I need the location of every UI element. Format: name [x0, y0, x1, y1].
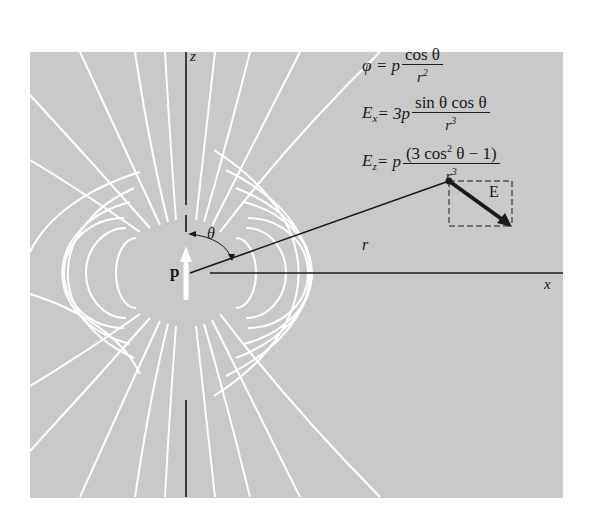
ex-prefix: = 3p — [377, 104, 410, 124]
ex-den-exp: 3 — [451, 115, 456, 126]
theta-label: θ — [207, 225, 215, 243]
radius-label: r — [362, 236, 368, 254]
ez-lhs: Ez — [362, 151, 377, 172]
ez-num-b: θ − 1) — [452, 144, 497, 163]
equation-phi: φ = p cos θ r2 — [362, 46, 443, 85]
ex-lhs-base: E — [362, 103, 372, 122]
phi-lhs: φ = p — [362, 56, 400, 76]
ex-fraction: sin θ cos θ r3 — [412, 94, 490, 133]
ez-prefix: = p — [377, 152, 401, 172]
z-axis-label: z — [190, 48, 196, 65]
equation-ez: Ez = p (3 cos2 θ − 1) r3 — [362, 140, 500, 184]
ez-denominator: r3 — [446, 164, 457, 184]
ez-den-exp: 3 — [452, 166, 457, 177]
ex-denominator: r3 — [445, 113, 456, 133]
phi-fraction: cos θ r2 — [402, 46, 443, 85]
phi-den-exp: 2 — [423, 67, 428, 78]
ez-lhs-base: E — [362, 151, 372, 170]
field-vector-label: E — [489, 183, 499, 201]
x-axis-label: x — [544, 276, 551, 293]
phi-denominator: r2 — [417, 65, 428, 85]
ex-lhs: Ex — [362, 103, 377, 124]
equation-ex: Ex = 3p sin θ cos θ r3 — [362, 94, 490, 133]
ez-fraction: (3 cos2 θ − 1) r3 — [403, 140, 500, 184]
ex-numerator: sin θ cos θ — [412, 94, 490, 113]
dipole-field-diagram — [0, 0, 590, 517]
dipole-label: p — [170, 262, 179, 282]
phi-numerator: cos θ — [402, 46, 443, 65]
ez-num-a: (3 cos — [406, 144, 447, 163]
ez-numerator: (3 cos2 θ − 1) — [403, 140, 500, 164]
